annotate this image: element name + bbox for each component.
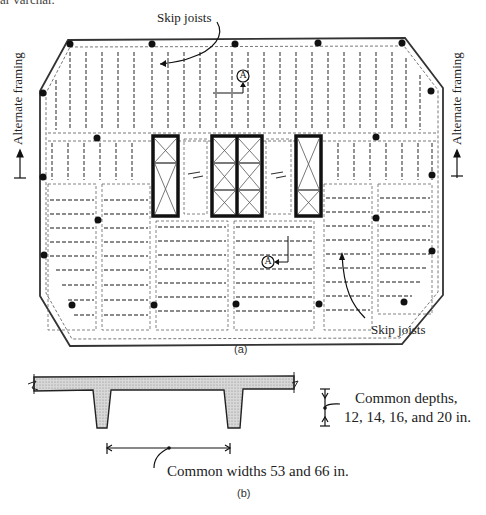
alternate-framing-label-left: Alternate framing	[10, 52, 26, 145]
skip-joists-label-top: Skip joists	[157, 10, 212, 26]
section-marker-a-top-label: A	[239, 69, 247, 80]
caption-a: (a)	[234, 343, 247, 355]
core-shafts	[153, 136, 321, 216]
width-note: Common widths 53 and 66 in.	[167, 463, 349, 480]
section-marker-a-bottom-label: A	[264, 255, 272, 266]
slab-section	[28, 372, 298, 428]
caption-b: (b)	[237, 487, 250, 499]
depth-dimension	[320, 389, 340, 426]
skip-joists-label-bottom: Skip joists	[371, 322, 426, 338]
alternate-framing-label-right: Alternate framing	[449, 52, 465, 145]
depth-note-line2: 12, 14, 16, and 20 in.	[344, 409, 471, 426]
alternate-framing-arrow-right	[451, 150, 463, 178]
alternate-framing-arrow-left	[14, 150, 26, 178]
upper-joists	[56, 52, 420, 130]
depth-note-line1: Common depths,	[355, 390, 458, 407]
